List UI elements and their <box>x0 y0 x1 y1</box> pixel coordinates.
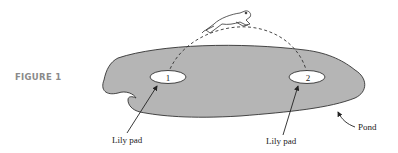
pad-2-number: 2 <box>306 73 311 83</box>
lily-pad-2-label: Lily pad <box>266 136 297 146</box>
frog-icon <box>202 11 251 33</box>
pond-shape <box>103 45 365 117</box>
lily-pad-2: 2 <box>289 71 325 84</box>
arrow-to-pond <box>338 112 355 127</box>
lily-pad-1-label: Lily pad <box>112 135 143 145</box>
lily-pad-1: 1 <box>150 71 186 84</box>
pond-label: Pond <box>358 122 377 132</box>
pad-1-number: 1 <box>166 73 171 83</box>
pond-diagram: 1 2 Lily pad Lily pad Pond <box>0 0 398 153</box>
